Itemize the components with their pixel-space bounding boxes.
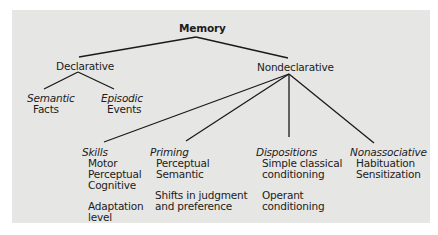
node-episodic: Episodic Events [101,93,143,115]
item-conditioning-2: conditioning [256,201,342,212]
node-skills: Skills Motor Perceptual Cognitive Adapta… [82,147,143,223]
edge-memory-nondeclarative [196,37,288,58]
item-sensitization: Sensitization [350,169,427,180]
node-nondeclarative: Nondeclarative [257,62,334,73]
item-level: level [82,212,143,223]
edge-nondeclarative-priming [186,74,289,141]
node-nonassociative: Nonassociative Habituation Sensitization [350,147,427,180]
item-facts: Facts [27,104,75,115]
item-semantic: Semantic [150,169,247,180]
edge-declarative-episodic [78,72,114,89]
node-declarative: Declarative [56,61,114,72]
node-priming: Priming Perceptual Semantic Shifts in ju… [150,147,247,212]
item-and-preference: and preference [150,201,247,212]
node-memory: Memory [179,23,226,34]
item-conditioning: conditioning [256,169,342,180]
node-dispositions: Dispositions Simple classical conditioni… [256,147,342,212]
node-semantic: Semantic Facts [27,93,75,115]
edge-declarative-semantic [44,72,78,89]
item-events: Events [101,104,143,115]
edge-nondeclarative-nonassociative [289,74,374,143]
edge-memory-declarative [79,37,196,57]
item-cognitive: Cognitive [82,180,143,191]
